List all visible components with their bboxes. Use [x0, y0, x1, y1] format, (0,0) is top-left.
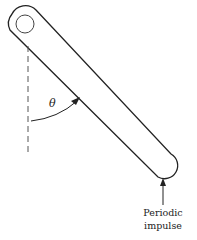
pendulum-rod — [9, 6, 178, 179]
arc-arrowhead-icon — [71, 97, 80, 105]
pivot-hole — [16, 15, 34, 33]
pendulum-diagram: θ Periodic impulse — [0, 0, 197, 240]
impulse-arrow — [160, 178, 166, 205]
impulse-label-line2: impulse — [144, 220, 182, 231]
impulse-label-line1: Periodic — [143, 207, 182, 218]
angle-label: θ — [49, 97, 56, 110]
